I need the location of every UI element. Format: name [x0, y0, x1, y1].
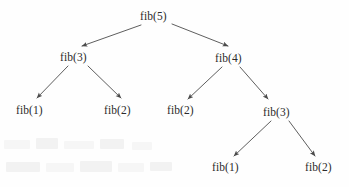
tree-node-fib3-left: fib(3) [60, 51, 87, 64]
tree-edge-n0-n1 [82, 25, 141, 46]
tree-node-fib2-c: fib(2) [305, 161, 332, 174]
tree-edge-n1-n3 [37, 66, 68, 98]
tree-edge-n6-n7 [234, 121, 271, 156]
tree-node-fib2-b: fib(2) [167, 104, 194, 117]
recursion-tree-diagram: fib(5) fib(3) fib(4) fib(1) fib(2) fib(2… [0, 0, 349, 187]
tree-edge-n2-n5 [188, 67, 222, 99]
tree-node-fib3-right: fib(3) [263, 106, 290, 119]
tree-node-fib4: fib(4) [215, 52, 242, 65]
tree-node-fib1-a: fib(1) [16, 104, 43, 117]
tree-edge-n2-n6 [240, 67, 268, 99]
tree-edge-n0-n2 [172, 24, 228, 46]
tree-node-fib1-b: fib(1) [212, 161, 239, 174]
tree-node-fib5: fib(5) [140, 10, 167, 23]
tree-edge-n6-n8 [289, 121, 315, 156]
tree-edge-n1-n4 [88, 66, 121, 98]
tree-edges [0, 0, 349, 187]
tree-node-fib2-a: fib(2) [104, 104, 131, 117]
